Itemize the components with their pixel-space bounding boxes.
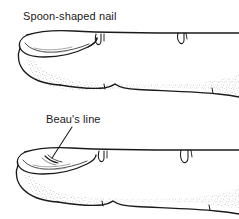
beaus-line-groove	[42, 155, 62, 165]
knuckle-crease-distal-bottom	[181, 150, 192, 163]
nail-sheen-a-top	[34, 47, 72, 50]
volar-joint-tick-b-bottom	[209, 205, 210, 210]
figure-artwork	[0, 0, 239, 219]
label-spoon-shaped-nail: Spoon-shaped nail	[23, 10, 116, 22]
label-beaus-line: Beau's line	[46, 113, 101, 125]
panel-beaus-line	[16, 127, 239, 214]
nail-sheen-a-bottom	[33, 164, 70, 167]
knuckle-crease-distal-top	[178, 33, 187, 44]
knuckle-crease-proximal-bottom	[98, 151, 107, 162]
nail-abnormalities-figure: Spoon-shaped nail Beau's line	[0, 0, 239, 219]
beaus-line-leader	[52, 127, 72, 158]
panel-spoon-nail	[18, 31, 239, 100]
finger-dorsal-contour-top	[27, 31, 239, 35]
